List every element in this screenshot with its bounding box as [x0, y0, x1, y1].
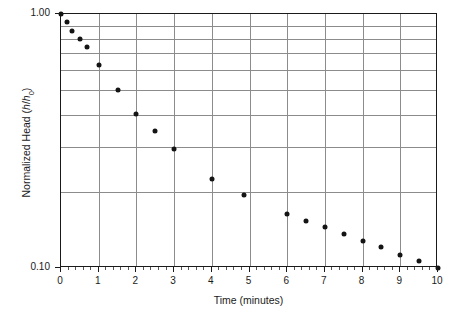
- x-axis-minor-tick: [347, 267, 348, 270]
- x-axis-tick: [437, 267, 438, 272]
- data-point: [322, 225, 327, 230]
- x-axis-minor-tick: [241, 267, 242, 270]
- x-axis-tick-label: 10: [422, 275, 452, 287]
- data-point: [85, 45, 90, 50]
- x-axis-minor-tick: [181, 267, 182, 270]
- x-axis-minor-tick: [90, 267, 91, 270]
- x-axis-minor-tick: [226, 267, 227, 270]
- x-axis-tick: [135, 267, 136, 272]
- x-axis-minor-tick: [316, 267, 317, 270]
- x-axis-tick-label: 5: [234, 275, 264, 287]
- x-axis-minor-tick: [271, 267, 272, 270]
- x-axis-tick-label: 9: [384, 275, 414, 287]
- x-axis-tick-label: 3: [158, 275, 188, 287]
- x-axis-minor-tick: [218, 267, 219, 270]
- x-axis-minor-tick: [166, 267, 167, 270]
- x-axis-minor-tick: [407, 267, 408, 270]
- x-axis-tick: [173, 267, 174, 272]
- x-axis-minor-tick: [331, 267, 332, 270]
- chart-figure: Normalized Head (h/h0) Time (minutes) 01…: [0, 0, 460, 320]
- x-axis-tick: [362, 267, 363, 272]
- gridline-vertical: [363, 14, 364, 266]
- gridline-horizontal: [61, 26, 436, 27]
- x-axis-minor-tick: [414, 267, 415, 270]
- x-axis-minor-tick: [392, 267, 393, 270]
- x-axis-minor-tick: [128, 267, 129, 270]
- data-point: [115, 88, 120, 93]
- x-axis-tick-label: 1: [83, 275, 113, 287]
- x-axis-minor-tick: [75, 267, 76, 270]
- x-axis-tick-label: 0: [45, 275, 75, 287]
- x-axis-minor-tick: [68, 267, 69, 270]
- data-point: [70, 28, 75, 33]
- data-point: [417, 258, 422, 263]
- x-axis-tick: [399, 267, 400, 272]
- x-axis-minor-tick: [354, 267, 355, 270]
- data-point: [398, 252, 403, 257]
- gridline-vertical: [174, 14, 175, 266]
- gridline-horizontal: [61, 70, 436, 71]
- x-axis-minor-tick: [429, 267, 430, 270]
- x-axis-minor-tick: [422, 267, 423, 270]
- data-point: [360, 238, 365, 243]
- gridline-vertical: [287, 14, 288, 266]
- x-axis-tick: [60, 267, 61, 272]
- x-axis-minor-tick: [105, 267, 106, 270]
- x-axis-minor-tick: [203, 267, 204, 270]
- x-axis-minor-tick: [120, 267, 121, 270]
- x-axis-tick: [249, 267, 250, 272]
- x-axis-tick-label: 4: [196, 275, 226, 287]
- gridline-vertical: [400, 14, 401, 266]
- data-point: [209, 176, 214, 181]
- data-point: [96, 62, 101, 67]
- y-axis-tick: [55, 267, 60, 268]
- x-axis-tick-label: 6: [271, 275, 301, 287]
- x-axis-minor-tick: [339, 267, 340, 270]
- y-axis-title: Normalized Head (h/h0): [20, 33, 35, 253]
- x-axis-minor-tick: [256, 267, 257, 270]
- gridline-horizontal: [61, 53, 436, 54]
- x-axis-minor-tick: [113, 267, 114, 270]
- y-axis-tick: [55, 13, 60, 14]
- gridline-vertical: [250, 14, 251, 266]
- x-axis-tick-label: 8: [347, 275, 377, 287]
- x-axis-minor-tick: [233, 267, 234, 270]
- x-axis-minor-tick: [143, 267, 144, 270]
- x-axis-tick: [286, 267, 287, 272]
- data-point: [304, 219, 309, 224]
- x-axis-tick-label: 2: [120, 275, 150, 287]
- x-axis-tick: [324, 267, 325, 272]
- data-point: [172, 146, 177, 151]
- data-point: [379, 244, 384, 249]
- data-point: [153, 129, 158, 134]
- x-axis-minor-tick: [384, 267, 385, 270]
- data-point: [241, 193, 246, 198]
- y-axis-tick-label: 1.00: [16, 7, 50, 19]
- x-axis-tick-label: 7: [309, 275, 339, 287]
- gridline-horizontal: [61, 192, 436, 193]
- x-axis-minor-tick: [158, 267, 159, 270]
- x-axis-minor-tick: [264, 267, 265, 270]
- gridline-horizontal: [61, 39, 436, 40]
- x-axis-minor-tick: [188, 267, 189, 270]
- data-point: [285, 212, 290, 217]
- x-axis-title: Time (minutes): [60, 294, 437, 306]
- plot-area: [60, 13, 437, 267]
- gridline-horizontal: [61, 115, 436, 116]
- gridline-vertical: [136, 14, 137, 266]
- x-axis-tick: [98, 267, 99, 272]
- data-point: [64, 20, 69, 25]
- y-axis-tick-label: 0.10: [16, 261, 50, 273]
- x-axis-minor-tick: [301, 267, 302, 270]
- gridline-vertical: [99, 14, 100, 266]
- gridline-horizontal: [61, 147, 436, 148]
- x-axis-minor-tick: [377, 267, 378, 270]
- x-axis-minor-tick: [150, 267, 151, 270]
- data-point: [341, 232, 346, 237]
- x-axis-minor-tick: [279, 267, 280, 270]
- data-point: [77, 36, 82, 41]
- x-axis-minor-tick: [83, 267, 84, 270]
- data-point: [134, 111, 139, 116]
- gridline-vertical: [212, 14, 213, 266]
- x-axis-minor-tick: [369, 267, 370, 270]
